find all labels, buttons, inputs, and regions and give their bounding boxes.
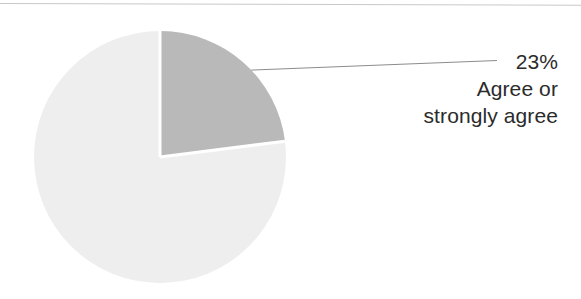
callout-line-3: strongly agree <box>330 102 558 129</box>
callout-percent: 23% <box>330 48 558 75</box>
pie-slice-agree-or-strongly-agree <box>160 31 285 157</box>
slice-callout-label: 23% Agree or strongly agree <box>330 48 558 129</box>
callout-line-2: Agree or <box>330 75 558 102</box>
pie-chart-graphic <box>0 0 581 299</box>
chart-canvas: 23% Agree or strongly agree <box>0 0 581 299</box>
